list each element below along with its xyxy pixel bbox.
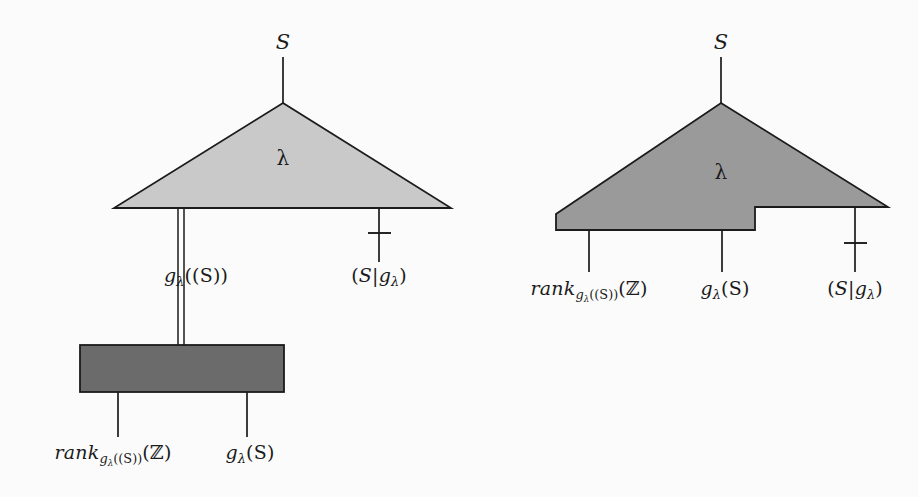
right-output-label-3: (S|gλ): [827, 279, 883, 298]
left-rol-first: S: [359, 266, 372, 285]
lbol2-sub: λ: [238, 452, 246, 465]
left-rol-sub: λ: [391, 275, 399, 288]
right-output-label-2: gλ(S): [700, 279, 749, 298]
rol1-base: rank: [530, 279, 575, 298]
rol3-sub: λ: [867, 288, 875, 301]
left-dwl-sub: λ: [176, 275, 184, 288]
rol1-sub-sub: λ: [584, 294, 590, 303]
rol3-open: (: [827, 279, 835, 298]
left-right-output-label: (S|gλ): [351, 266, 407, 285]
left-dwl-args: ((S)): [184, 266, 228, 285]
lbol1-sub-base: g: [99, 452, 107, 465]
rol1-tail: (ℤ): [618, 279, 647, 298]
string-diagram-figure: S λ gλ((S)) (S|gλ) rankgλ((S))(ℤ) gλ(S) …: [0, 0, 918, 497]
left-box-output-label-1: rankgλ((S))(ℤ): [54, 443, 171, 462]
lbol1-sub-sub: λ: [108, 458, 114, 467]
rol3-base: g: [855, 279, 867, 298]
diagram-canvas: [0, 0, 918, 497]
left-rol-open: (: [351, 266, 359, 285]
rol1-sub-args: ((S)): [589, 288, 618, 301]
rol2-base: g: [700, 279, 712, 298]
rol3-close: ): [875, 279, 883, 298]
lbol1-base: rank: [54, 443, 99, 462]
left-double-wire-label: gλ((S)): [164, 266, 228, 285]
right-output-label-1: rankgλ((S))(ℤ): [530, 279, 647, 298]
lbol2-args: (S): [246, 443, 274, 462]
left-node-label: λ: [277, 148, 290, 168]
left-dark-box-node: [80, 345, 284, 392]
rol2-args: (S): [721, 279, 749, 298]
left-diagram-group: [80, 57, 451, 437]
left-rol-base: g: [379, 266, 391, 285]
right-node-label: λ: [715, 162, 728, 182]
lbol2-base: g: [225, 443, 237, 462]
left-dwl-base: g: [164, 266, 176, 285]
left-rol-close: ): [399, 266, 407, 285]
lbol1-sub-args: ((S)): [113, 452, 142, 465]
lbol1-tail: (ℤ): [142, 443, 171, 462]
left-top-wire-label: S: [276, 32, 291, 53]
rol3-first: S: [835, 279, 848, 298]
right-top-wire-label: S: [714, 32, 729, 53]
left-box-output-label-2: gλ(S): [225, 443, 274, 462]
rol2-sub: λ: [713, 288, 721, 301]
rol1-sub-base: g: [575, 288, 583, 301]
